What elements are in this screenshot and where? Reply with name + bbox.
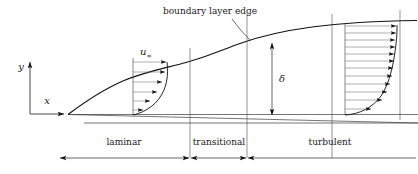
turbulent-profile-envelope — [345, 25, 397, 115]
region-label-turbulent: turbulent — [309, 137, 352, 147]
x-axis-label: x — [44, 95, 50, 106]
diagram-canvas: x y boundary layer edge — [0, 0, 418, 174]
region-labels: laminar transitional turbulent — [106, 137, 351, 147]
turbulent-velocity-profile — [345, 24, 397, 115]
plate-bottom-surface — [68, 115, 418, 124]
coordinate-axes: x y — [17, 61, 64, 114]
flat-plate — [68, 115, 418, 124]
y-axis-label: y — [17, 61, 24, 72]
boundary-layer-edge-path — [68, 21, 417, 115]
laminar-velocity-profile: u∞ — [133, 46, 168, 115]
region-label-laminar: laminar — [106, 137, 142, 147]
boundary-layer-edge-annotation: boundary layer edge — [163, 6, 257, 40]
u-infinity-label: u∞ — [140, 46, 152, 60]
boundary-layer-edge-label: boundary layer edge — [163, 6, 257, 16]
delta-label: δ — [279, 73, 285, 84]
boundary-layer-edge-curve — [68, 21, 417, 115]
u-infinity-subscript: ∞ — [147, 52, 152, 60]
delta-thickness-marker: δ — [272, 43, 285, 115]
boundary-layer-diagram: x y boundary layer edge — [0, 0, 418, 174]
region-label-transitional: transitional — [193, 137, 246, 147]
laminar-profile-envelope — [133, 62, 168, 115]
